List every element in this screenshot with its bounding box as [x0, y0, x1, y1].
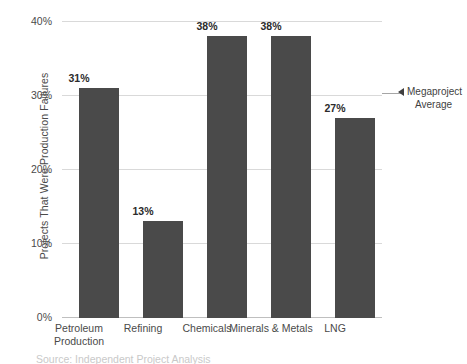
megaproject-average-label-line1: Megaproject	[407, 86, 462, 97]
megaproject-average-label-line2: Average	[407, 99, 467, 112]
footer-source-text: Source: Independent Project Analysis	[36, 354, 276, 364]
plot-area	[62, 21, 382, 318]
bar-chemicals[interactable]	[207, 36, 247, 318]
y-tick-label-40: 40%	[10, 15, 52, 27]
left-triangle-icon	[398, 88, 404, 96]
bar-refining[interactable]	[143, 221, 183, 318]
y-tick-label-20: 20%	[10, 163, 52, 175]
bar-value-petroleum-production: 31%	[44, 72, 114, 84]
bar-lng[interactable]	[335, 118, 375, 318]
bar-value-refining: 13%	[108, 205, 178, 217]
category-label-lng: LNG	[292, 322, 378, 335]
bar-value-lng: 27%	[300, 102, 370, 114]
bar-value-minerals-metals: 38%	[236, 20, 306, 32]
megaproject-average-label: Megaproject Average	[407, 86, 467, 111]
bar-minerals-metals[interactable]	[271, 36, 311, 318]
y-tick-label-30: 30%	[10, 89, 52, 101]
y-tick-label-10: 10%	[10, 237, 52, 249]
bar-value-chemicals: 38%	[172, 20, 242, 32]
bar-petroleum-production[interactable]	[79, 88, 119, 318]
